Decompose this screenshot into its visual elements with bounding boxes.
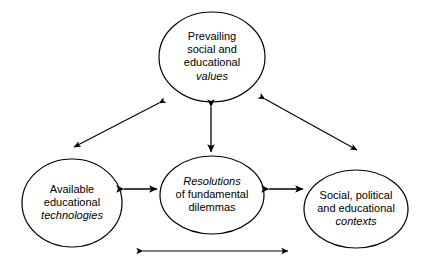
arrow-values-technologies <box>74 103 159 147</box>
node-ellipse-technologies <box>22 159 122 247</box>
arrow-values-contexts <box>265 99 357 150</box>
node-ellipse-resolutions <box>160 156 264 234</box>
diagram-canvas: Prevailing social and educational values… <box>0 0 421 272</box>
node-ellipse-contexts <box>304 170 408 248</box>
diagram-graphics <box>0 0 421 272</box>
node-ellipse-values <box>159 12 265 102</box>
